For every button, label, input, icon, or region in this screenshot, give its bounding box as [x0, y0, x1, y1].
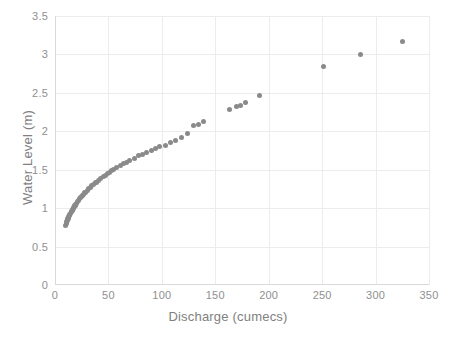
x-axis-title: Discharge (cumecs) — [0, 309, 456, 324]
data-point — [257, 93, 262, 98]
y-tick-label: 1.5 — [48, 164, 64, 176]
y-axis-title: Water Level (m) — [20, 78, 35, 238]
data-point — [227, 107, 232, 112]
y-tick-label: 3 — [48, 48, 54, 60]
plot-area — [55, 16, 429, 285]
data-points-layer — [55, 16, 429, 285]
data-point — [196, 122, 201, 127]
x-tick-label: 250 — [313, 289, 332, 301]
data-point — [168, 140, 173, 145]
data-point — [163, 143, 168, 148]
y-tick-label: 0.5 — [48, 241, 64, 253]
y-tick-label: 1 — [48, 202, 54, 214]
y-tick-label: 0 — [48, 279, 54, 291]
data-point — [358, 52, 363, 57]
data-point — [243, 100, 248, 105]
data-point — [173, 138, 178, 143]
x-tick-label: 100 — [152, 289, 171, 301]
x-tick-label: 150 — [206, 289, 225, 301]
x-tick-label: 350 — [420, 289, 439, 301]
scatter-chart: 050100150200250300350 00.511.522.533.5 D… — [0, 0, 456, 337]
x-tick-label: 200 — [259, 289, 278, 301]
y-tick-label: 2 — [48, 125, 54, 137]
data-point — [179, 135, 184, 140]
gridline-vertical — [429, 16, 430, 285]
x-tick-label: 50 — [102, 289, 115, 301]
data-point — [185, 131, 190, 136]
data-point — [400, 39, 405, 44]
y-tick-label: 2.5 — [48, 87, 64, 99]
data-point — [321, 64, 326, 69]
data-point — [157, 144, 162, 149]
y-tick-label: 3.5 — [48, 10, 64, 22]
data-point — [201, 119, 206, 124]
x-tick-label: 300 — [366, 289, 385, 301]
